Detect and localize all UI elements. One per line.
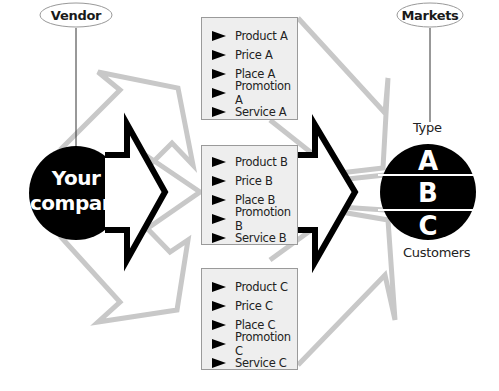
triangle-bullet-icon <box>212 50 226 60</box>
list-item: Service A <box>212 102 297 121</box>
segment-c-label: C <box>408 212 448 240</box>
item-label: Promotion B <box>235 205 297 233</box>
triangle-bullet-icon <box>212 320 226 330</box>
triangle-bullet-icon <box>212 195 226 205</box>
black-arrow-b-to-markets <box>298 125 355 262</box>
list-item: Price A <box>212 45 297 64</box>
triangle-bullet-icon <box>212 358 226 368</box>
item-label: Service A <box>235 105 286 119</box>
triangle-bullet-icon <box>212 176 226 186</box>
offer-box-c: Product C Price C Place C Promotion C Se… <box>201 268 298 370</box>
item-label: Price B <box>235 174 273 188</box>
list-item: Price C <box>212 296 297 315</box>
company-label-line1: Your <box>30 166 122 191</box>
item-label: Promotion C <box>235 330 297 358</box>
triangle-bullet-icon <box>212 107 226 117</box>
list-item: Product A <box>212 26 297 45</box>
offer-box-b: Product B Price B Place B Promotion B Se… <box>201 145 298 245</box>
vendor-label: Vendor <box>40 3 112 27</box>
item-label: Product C <box>235 280 288 294</box>
triangle-bullet-icon <box>212 339 226 349</box>
item-label: Promotion A <box>235 79 297 107</box>
triangle-bullet-icon <box>212 69 226 79</box>
item-label: Service C <box>235 356 287 370</box>
type-label: Type <box>413 120 442 135</box>
customers-label: Customers <box>403 245 470 260</box>
triangle-bullet-icon <box>212 31 226 41</box>
triangle-bullet-icon <box>212 282 226 292</box>
triangle-bullet-icon <box>212 301 226 311</box>
list-item: Service C <box>212 353 297 372</box>
item-label: Service B <box>235 231 286 245</box>
item-label: Price A <box>235 48 272 62</box>
triangle-bullet-icon <box>212 233 226 243</box>
list-item: Product B <box>212 152 297 171</box>
company-label-line2: company <box>30 191 122 216</box>
list-item: Product C <box>212 277 297 296</box>
list-item: Service B <box>212 228 297 247</box>
list-item: Promotion C <box>212 334 297 353</box>
list-item: Promotion A <box>212 83 297 102</box>
segment-a-label: A <box>408 147 448 175</box>
segment-b-label: B <box>408 179 448 207</box>
markets-label: Markets <box>397 3 463 27</box>
item-label: Product B <box>235 155 288 169</box>
list-item: Promotion B <box>212 209 297 228</box>
item-label: Product A <box>235 29 288 43</box>
list-item: Price B <box>212 171 297 190</box>
triangle-bullet-icon <box>212 157 226 167</box>
company-label: Your company <box>30 166 122 216</box>
item-label: Price C <box>235 299 273 313</box>
triangle-bullet-icon <box>212 88 226 98</box>
triangle-bullet-icon <box>212 214 226 224</box>
offer-box-a: Product A Price A Place A Promotion A Se… <box>201 17 298 120</box>
